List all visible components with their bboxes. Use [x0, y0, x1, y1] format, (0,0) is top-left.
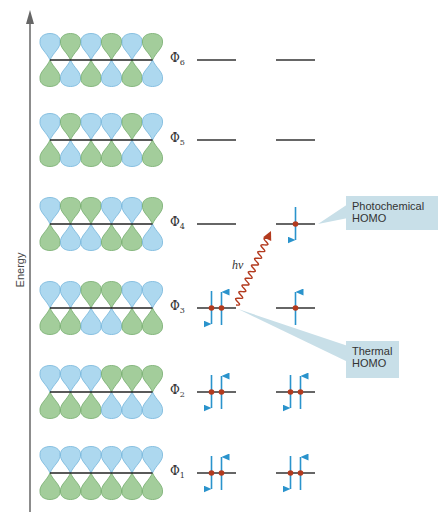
- p-orbital-lobe: [122, 34, 142, 61]
- p-orbital-lobe: [60, 114, 80, 141]
- energy-axis-arrow-icon: [26, 10, 34, 24]
- photon-label: hν: [232, 258, 243, 273]
- p-orbital-lobe: [142, 198, 162, 225]
- p-orbital-lobe: [101, 473, 121, 500]
- p-orbital-lobe: [40, 282, 60, 309]
- p-orbital-lobe: [142, 366, 162, 393]
- callout-text: HOMO: [352, 357, 393, 369]
- orbital-label-Φ6: Φ6: [170, 51, 185, 67]
- callout-text: Photochemical: [352, 200, 432, 212]
- orbital-label-Φ4: Φ4: [170, 215, 185, 231]
- p-orbital-lobe: [81, 282, 101, 309]
- p-orbital-lobe: [60, 366, 80, 393]
- p-orbital-lobe: [60, 282, 80, 309]
- phi-subscript: 5: [180, 138, 185, 147]
- phi-symbol: Φ: [170, 464, 180, 478]
- p-orbital-lobe: [101, 224, 121, 251]
- p-orbital-lobe: [40, 60, 60, 87]
- electron-dot: [209, 470, 215, 476]
- p-orbital-lobe: [60, 140, 80, 167]
- p-orbital-lobe: [40, 473, 60, 500]
- p-orbital-lobe: [81, 392, 101, 419]
- p-orbital-lobe: [142, 392, 162, 419]
- p-orbital-lobe: [101, 308, 121, 335]
- p-orbital-lobe: [60, 473, 80, 500]
- electron-dot: [219, 470, 225, 476]
- p-orbital-lobe: [40, 140, 60, 167]
- p-orbital-lobe: [101, 140, 121, 167]
- orbital-label-Φ2: Φ2: [170, 383, 185, 399]
- p-orbital-lobe: [81, 34, 101, 61]
- callout-text: Thermal: [352, 345, 393, 357]
- phi-symbol: Φ: [170, 299, 180, 313]
- p-orbital-lobe: [60, 308, 80, 335]
- phi-subscript: 1: [180, 471, 185, 480]
- orbital-label-Φ5: Φ5: [170, 131, 185, 147]
- p-orbital-lobe: [40, 34, 60, 61]
- electron-dot: [293, 221, 299, 227]
- energy-label-text: Energy: [14, 253, 26, 288]
- phi-symbol: Φ: [170, 131, 180, 145]
- p-orbital-lobe: [101, 366, 121, 393]
- p-orbital-lobe: [122, 473, 142, 500]
- p-orbital-lobe: [101, 392, 121, 419]
- phi-subscript: 3: [180, 306, 185, 315]
- energy-axis-label: Energy: [2, 245, 38, 295]
- phi-subscript: 4: [180, 222, 185, 231]
- diagram-canvas: [0, 0, 442, 524]
- thermal-homo-callout: Thermal HOMO: [346, 341, 399, 378]
- p-orbital-lobe: [122, 60, 142, 87]
- p-orbital-lobe: [40, 114, 60, 141]
- callout-text: HOMO: [352, 212, 432, 224]
- electron-dot: [298, 470, 304, 476]
- p-orbital-lobe: [101, 114, 121, 141]
- phi-subscript: 6: [180, 58, 185, 67]
- p-orbital-lobe: [81, 308, 101, 335]
- p-orbital-lobe: [101, 282, 121, 309]
- p-orbital-lobe: [60, 60, 80, 87]
- phi-symbol: Φ: [170, 215, 180, 229]
- p-orbital-lobe: [40, 224, 60, 251]
- electron-dot: [288, 389, 294, 395]
- mo-diagram: Energy Φ6Φ5Φ4Φ3Φ2Φ1 hν Photochemical HOM…: [0, 0, 442, 524]
- p-orbital-lobe: [81, 198, 101, 225]
- phi-symbol: Φ: [170, 383, 180, 397]
- p-orbital-lobe: [142, 473, 162, 500]
- electron-dot: [219, 389, 225, 395]
- p-orbital-lobe: [60, 198, 80, 225]
- p-orbital-lobe: [122, 282, 142, 309]
- p-orbital-lobe: [81, 473, 101, 500]
- electron-dot: [209, 389, 215, 395]
- p-orbital-lobe: [142, 224, 162, 251]
- p-orbital-lobe: [40, 198, 60, 225]
- p-orbital-lobe: [122, 308, 142, 335]
- electron-dot: [298, 389, 304, 395]
- p-orbital-lobe: [142, 34, 162, 61]
- p-orbital-lobe: [40, 366, 60, 393]
- p-orbital-lobe: [122, 392, 142, 419]
- electron-dot: [219, 305, 225, 311]
- electron-dot: [209, 305, 215, 311]
- p-orbital-lobe: [81, 224, 101, 251]
- p-orbital-lobe: [101, 34, 121, 61]
- p-orbital-lobe: [122, 447, 142, 474]
- phi-symbol: Φ: [170, 51, 180, 65]
- p-orbital-lobe: [60, 34, 80, 61]
- orbital-label-Φ3: Φ3: [170, 299, 185, 315]
- photochemical-homo-callout: Photochemical HOMO: [346, 196, 438, 230]
- p-orbital-lobe: [81, 114, 101, 141]
- p-orbital-lobe: [142, 114, 162, 141]
- p-orbital-lobe: [81, 140, 101, 167]
- p-orbital-lobe: [60, 224, 80, 251]
- p-orbital-lobe: [60, 447, 80, 474]
- p-orbital-lobe: [101, 447, 121, 474]
- thermal-callout-pointer: [238, 309, 348, 362]
- p-orbital-lobe: [60, 392, 80, 419]
- p-orbital-lobe: [101, 198, 121, 225]
- phi-subscript: 2: [180, 390, 185, 399]
- p-orbital-lobe: [142, 60, 162, 87]
- p-orbital-lobe: [122, 140, 142, 167]
- p-orbital-lobe: [122, 366, 142, 393]
- p-orbital-lobe: [81, 447, 101, 474]
- orbital-label-Φ1: Φ1: [170, 464, 185, 480]
